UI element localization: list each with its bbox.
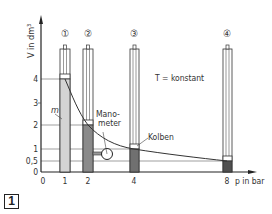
svg-text:8: 8 bbox=[225, 176, 230, 186]
piston-label: Kolben bbox=[148, 132, 174, 142]
svg-text:3: 3 bbox=[33, 98, 38, 108]
y-axis-label: V in dm³ bbox=[26, 24, 36, 58]
svg-text:2: 2 bbox=[33, 120, 38, 130]
svg-text:③: ③ bbox=[130, 28, 138, 39]
svg-text:1: 1 bbox=[63, 176, 68, 186]
svg-text:0: 0 bbox=[41, 176, 46, 186]
manometer: Mano- meter bbox=[93, 109, 122, 160]
svg-text:0: 0 bbox=[33, 167, 38, 177]
cylinder-1: ① bbox=[60, 28, 70, 172]
boyle-mariotte-diagram: V in dm³ 0 0,5 1 2 3 4 0 1 2 4 8 p in ba… bbox=[0, 0, 272, 214]
svg-text:④: ④ bbox=[223, 28, 231, 39]
cylinder-2: ② bbox=[83, 28, 93, 172]
condition-label: T = konstant bbox=[154, 73, 204, 83]
mass-label: m bbox=[51, 105, 59, 115]
svg-text:2: 2 bbox=[86, 176, 91, 186]
figure-number: 1 bbox=[4, 194, 19, 209]
y-axis bbox=[39, 15, 43, 172]
cylinder-3: ③ bbox=[130, 28, 139, 172]
svg-text:4: 4 bbox=[132, 176, 137, 186]
svg-text:1: 1 bbox=[33, 144, 38, 154]
cylinder-4: ④ bbox=[223, 28, 232, 172]
svg-text:4: 4 bbox=[33, 74, 38, 84]
svg-text:①: ① bbox=[61, 28, 69, 39]
svg-text:meter: meter bbox=[98, 118, 122, 128]
x-tick-labels: 0 1 2 4 8 bbox=[41, 176, 230, 186]
svg-text:②: ② bbox=[84, 28, 92, 39]
x-axis-label: p in bar bbox=[235, 176, 265, 186]
y-tick-labels: 0 0,5 1 2 3 4 bbox=[26, 74, 38, 177]
svg-text:0,5: 0,5 bbox=[26, 156, 38, 166]
